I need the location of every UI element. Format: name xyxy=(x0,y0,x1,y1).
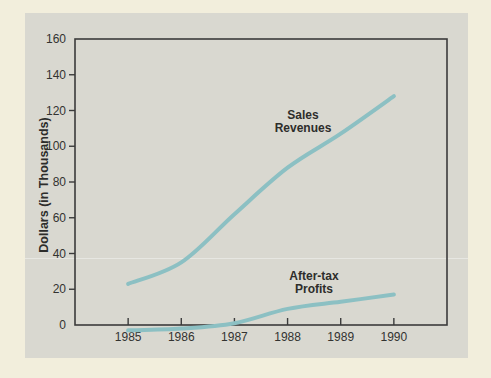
chart-figure: 0204060801001201401601985198619871988198… xyxy=(0,0,491,378)
series-label-profits-line2: Profits xyxy=(289,283,338,296)
y-tick-label: 80 xyxy=(53,175,67,189)
x-tick-label: 1986 xyxy=(168,330,195,344)
y-tick-label: 60 xyxy=(53,211,67,225)
y-tick-label: 40 xyxy=(53,247,67,261)
x-tick-label: 1988 xyxy=(274,330,301,344)
y-tick-label: 160 xyxy=(46,32,66,46)
x-tick-label: 1987 xyxy=(221,330,248,344)
y-tick-label: 140 xyxy=(46,68,66,82)
y-tick-label: 20 xyxy=(53,282,67,296)
series-label-after-tax-profits: After-tax Profits xyxy=(289,270,338,296)
x-tick-label: 1989 xyxy=(327,330,354,344)
series-label-sales-line2: Revenues xyxy=(275,122,332,135)
y-tick-label: 120 xyxy=(46,104,66,118)
y-tick-label: 0 xyxy=(59,318,66,332)
plot-area: 0204060801001201401601985198619871988198… xyxy=(0,0,491,378)
x-tick-label: 1990 xyxy=(381,330,408,344)
y-axis-title: Dollars (in Thousands) xyxy=(37,117,51,252)
series-label-sales-revenues: Sales Revenues xyxy=(275,109,332,135)
series-line-sales-revenues xyxy=(128,96,394,284)
